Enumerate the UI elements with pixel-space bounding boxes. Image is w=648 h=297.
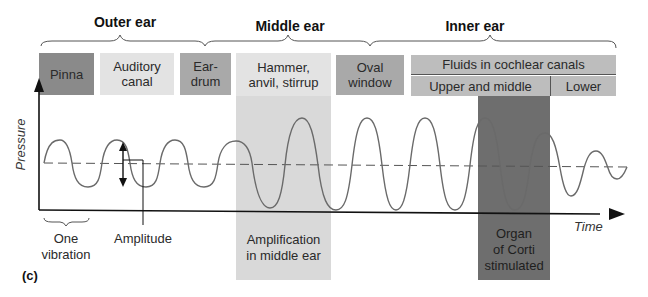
one-vibration-line-1: One — [38, 231, 94, 247]
middle-ear-brace — [205, 35, 370, 46]
baseline-dashed — [44, 163, 628, 167]
amplitude-arrowhead-down — [119, 178, 127, 187]
corti-line-3: stimulated — [478, 258, 550, 274]
corti-line-2: of Corti — [478, 242, 550, 258]
amplitude-label: Amplitude — [110, 231, 176, 247]
y-axis-label: Pressure — [13, 115, 28, 175]
y-axis-arrowhead — [34, 78, 44, 92]
amplification-label: Amplification in middle ear — [236, 232, 331, 264]
one-vibration-brace — [44, 218, 89, 226]
outer-ear-brace — [41, 35, 205, 46]
corti-line-1: Organ — [478, 226, 550, 242]
organ-of-corti-label: Organ of Corti stimulated — [478, 226, 550, 274]
inner-ear-brace — [370, 35, 616, 48]
one-vibration-label: One vibration — [38, 231, 94, 263]
amplification-line-1: Amplification — [236, 232, 331, 248]
x-axis-arrowhead — [609, 208, 625, 220]
one-vibration-line-2: vibration — [38, 247, 94, 263]
amplitude-leader-line — [123, 160, 143, 225]
x-axis-label: Time — [574, 219, 603, 234]
panel-label: (c) — [22, 268, 38, 283]
amplification-line-2: in middle ear — [236, 248, 331, 264]
